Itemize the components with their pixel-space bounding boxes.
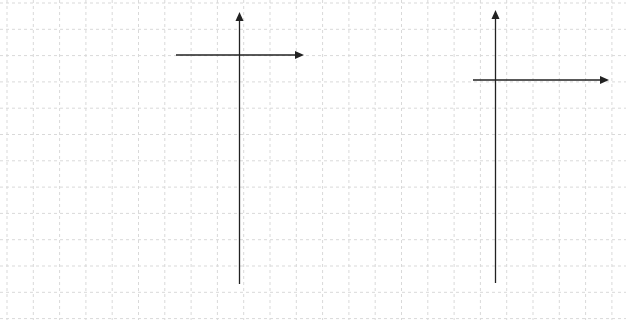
dashed-grid — [0, 0, 626, 320]
axes-layer — [176, 10, 609, 284]
x-axis-arrowhead-icon — [600, 76, 609, 84]
x-axis-arrowhead-icon — [295, 51, 304, 59]
right-axes — [473, 10, 609, 283]
left-axes — [176, 12, 304, 284]
y-axis-arrowhead-icon — [492, 10, 500, 19]
graph-paper-canvas — [0, 0, 626, 320]
y-axis-arrowhead-icon — [236, 12, 244, 21]
